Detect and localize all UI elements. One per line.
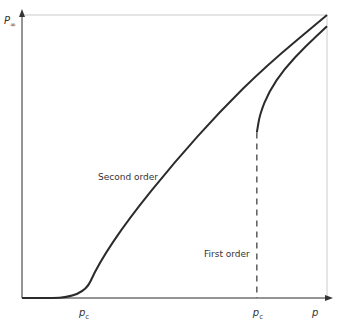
series-first-order [257, 26, 327, 132]
plot-frame [22, 15, 327, 298]
series-second-order [22, 15, 327, 298]
second-order-annotation: Second order [98, 172, 158, 182]
x-tick-label-pc-2: pc [252, 307, 263, 321]
x-axis-label: p [311, 307, 318, 318]
x-axis-arrow [325, 295, 333, 301]
chart: P∞ p pcpc Second order First order [0, 0, 341, 330]
x-tick-label-pc-1: pc [78, 307, 89, 321]
first-order-annotation: First order [204, 249, 250, 259]
y-axis-arrow [19, 9, 25, 17]
y-axis-label: P∞ [4, 15, 16, 29]
